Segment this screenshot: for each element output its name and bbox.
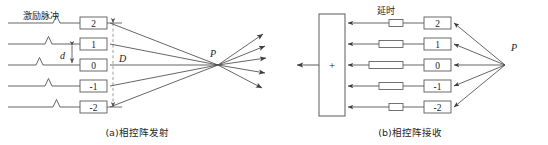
element-box-1: 1: [80, 38, 107, 50]
figure-svg: 激励脉冲 2 1 0 -1: [0, 0, 548, 145]
incoming-ray-to-m1: [454, 65, 505, 86]
element-label-3: -1: [90, 82, 98, 92]
element-label-4: -2: [90, 103, 98, 113]
incoming-ray-to-m2: [454, 65, 505, 107]
array-elements-receive: 2 1 0 -1 -2: [424, 17, 451, 113]
waveform-row-1: [8, 37, 80, 45]
phased-array-figure: 激励脉冲 2 1 0 -1: [0, 0, 548, 145]
ray-from-element-m2: [110, 65, 218, 107]
element-label-r1: 1: [435, 40, 440, 50]
element-box-rm1: -1: [424, 80, 451, 92]
element-label-1: 1: [91, 40, 96, 50]
element-box-r1: 1: [424, 38, 451, 50]
caption-b: (b)相控阵接收: [378, 127, 441, 138]
incoming-ray-to-1: [454, 44, 505, 65]
element-box-r2: 2: [424, 17, 451, 29]
panel-a-transmit: 激励脉冲 2 1 0 -1: [8, 10, 266, 138]
element-box-2: 2: [80, 17, 107, 29]
element-label-r3: -1: [434, 82, 442, 92]
pitch-label: d: [60, 50, 66, 61]
delay-block-row-3: [379, 83, 403, 90]
excitation-pulse-label: 激励脉冲: [23, 10, 59, 21]
element-label-r2: 0: [435, 61, 440, 71]
element-box-r0: 0: [424, 59, 451, 71]
element-label-r4: -2: [434, 103, 442, 113]
pitch-dimension: d: [60, 46, 72, 63]
element-box-minus1: -1: [80, 80, 107, 92]
sum-symbol: +: [329, 59, 335, 71]
element-label-r0: 2: [435, 19, 440, 29]
transmit-diverging-beams: [218, 34, 266, 88]
transmit-converging-rays: [110, 23, 218, 107]
source-point-label: P: [510, 42, 517, 53]
incoming-ray-to-2: [454, 23, 505, 65]
delay-label: 延时: [377, 5, 395, 16]
panel-b-receive: + 延时: [297, 5, 517, 138]
waveform-row-2: [8, 58, 80, 66]
beam-arrow-2: [218, 58, 266, 65]
caption-a: (a)相控阵发射: [105, 127, 168, 138]
delay-block-row-1: [379, 41, 403, 48]
element-label-0: 2: [91, 19, 96, 29]
delay-blocks: [369, 20, 403, 111]
waveform-row-4: [8, 100, 80, 108]
ray-from-element-m1: [110, 65, 218, 86]
element-box-0: 0: [80, 59, 107, 71]
element-box-rm2: -2: [424, 101, 451, 113]
excitation-waveforms: [8, 16, 80, 108]
summer-block: +: [297, 14, 345, 116]
focus-point-label: P: [209, 48, 216, 59]
aperture-label: D: [118, 53, 127, 64]
delay-block-row-0: [389, 20, 403, 27]
element-label-2: 0: [91, 61, 96, 71]
element-box-minus2: -2: [80, 101, 107, 113]
waveform-row-3: [8, 79, 80, 87]
array-elements-transmit: 2 1 0 -1 -2: [80, 17, 107, 113]
delay-block-row-4: [389, 104, 403, 111]
delay-block-row-2: [369, 62, 403, 69]
receive-incoming-rays: [454, 23, 505, 107]
